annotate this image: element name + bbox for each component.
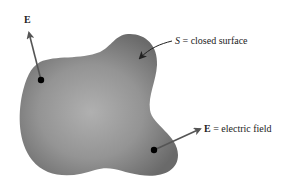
surface-description: = closed surface	[180, 35, 248, 46]
field-symbol: E	[204, 123, 211, 134]
closed-surface-shape	[20, 34, 178, 176]
field-label: E = electric field	[204, 124, 272, 134]
field-point-right	[151, 147, 157, 153]
surface-label: S = closed surface	[175, 36, 248, 46]
e-vector-label-top: E	[24, 15, 31, 25]
gauss-surface-diagram	[0, 0, 283, 194]
field-description: = electric field	[211, 123, 272, 134]
field-point-top	[38, 77, 44, 83]
